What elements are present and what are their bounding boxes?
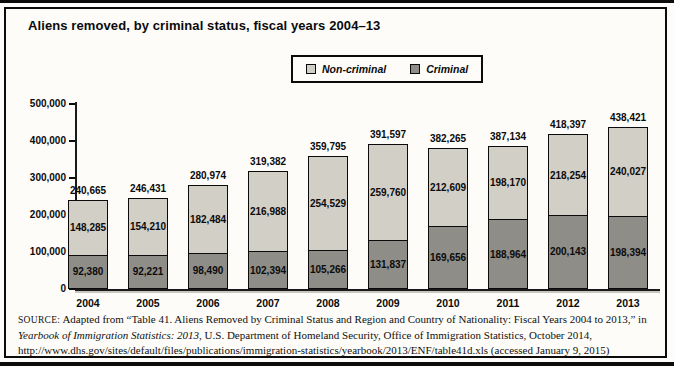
- noncriminal-value-2005: 154,210: [130, 221, 166, 232]
- x-tick-label-2008: 2008: [298, 297, 358, 309]
- criminal-value-2010: 169,656: [430, 252, 466, 263]
- y-tick-label-400,000: 400,000: [0, 135, 66, 146]
- criminal-value-2007: 102,394: [250, 265, 286, 276]
- source-label: SOURCE:: [18, 315, 60, 325]
- criminal-value-2011: 188,964: [490, 249, 526, 260]
- criminal-segment-2010: 169,656: [428, 226, 468, 289]
- criminal-segment-2004: 92,380: [68, 255, 108, 289]
- y-tick-label-100,000: 100,000: [0, 246, 66, 257]
- criminal-segment-2007: 102,394: [248, 251, 288, 289]
- source-note: SOURCE: Adapted from “Table 41. Aliens R…: [18, 312, 660, 358]
- noncriminal-value-2007: 216,988: [250, 206, 286, 217]
- noncriminal-segment-2008: 254,529: [308, 156, 348, 251]
- x-tick-label-2011: 2011: [478, 297, 538, 309]
- noncriminal-segment-2005: 154,210: [128, 198, 168, 256]
- total-label-2005: 246,431: [108, 183, 188, 194]
- noncriminal-value-2004: 148,285: [70, 222, 106, 233]
- noncriminal-segment-2012: 218,254: [548, 134, 588, 216]
- x-tick-label-2012: 2012: [538, 297, 598, 309]
- source-text-italic: Yearbook of Immigration Statistics: 2013: [18, 329, 199, 341]
- x-tick-label-2009: 2009: [358, 297, 418, 309]
- total-label-2013: 438,421: [588, 112, 668, 123]
- criminal-value-2005: 92,221: [133, 266, 164, 277]
- criminal-segment-2006: 98,490: [188, 253, 228, 289]
- criminal-value-2009: 131,837: [370, 259, 406, 270]
- noncriminal-value-2009: 259,760: [370, 187, 406, 198]
- x-tick-label-2005: 2005: [118, 297, 178, 309]
- criminal-segment-2008: 105,266: [308, 250, 348, 289]
- y-tick-label-500,000: 500,000: [0, 98, 66, 109]
- criminal-value-2008: 105,266: [310, 264, 346, 275]
- noncriminal-segment-2006: 182,484: [188, 185, 228, 254]
- criminal-value-2013: 198,394: [610, 247, 646, 258]
- x-tick-label-2010: 2010: [418, 297, 478, 309]
- x-axis-shadow: [75, 291, 660, 293]
- criminal-value-2004: 92,380: [73, 266, 104, 277]
- x-tick-label-2006: 2006: [178, 297, 238, 309]
- noncriminal-value-2010: 212,609: [430, 182, 466, 193]
- criminal-value-2006: 98,490: [193, 265, 224, 276]
- noncriminal-value-2011: 198,170: [490, 177, 526, 188]
- total-label-2008: 359,795: [288, 141, 368, 152]
- criminal-segment-2011: 188,964: [488, 219, 528, 289]
- total-label-2007: 319,382: [228, 156, 308, 167]
- criminal-value-2012: 200,143: [550, 246, 586, 257]
- criminal-segment-2005: 92,221: [128, 255, 168, 289]
- noncriminal-segment-2013: 240,027: [608, 127, 648, 217]
- source-text-1: Adapted from “Table 41. Aliens Removed b…: [60, 313, 646, 325]
- criminal-segment-2009: 131,837: [368, 240, 408, 289]
- x-tick-label-2004: 2004: [58, 297, 118, 309]
- y-tick-label-0: 0: [0, 283, 66, 294]
- criminal-segment-2012: 200,143: [548, 215, 588, 289]
- noncriminal-segment-2010: 212,609: [428, 148, 468, 228]
- noncriminal-segment-2009: 259,760: [368, 144, 408, 241]
- y-tick-label-300,000: 300,000: [0, 172, 66, 183]
- noncriminal-segment-2007: 216,988: [248, 171, 288, 252]
- noncriminal-segment-2011: 198,170: [488, 146, 528, 220]
- noncriminal-segment-2004: 148,285: [68, 200, 108, 256]
- criminal-segment-2013: 198,394: [608, 216, 648, 289]
- y-tick-label-200,000: 200,000: [0, 209, 66, 220]
- noncriminal-value-2008: 254,529: [310, 198, 346, 209]
- noncriminal-value-2012: 218,254: [550, 170, 586, 181]
- total-label-2006: 280,974: [168, 170, 248, 181]
- figure-page: Aliens removed, by criminal status, fisc…: [0, 0, 674, 368]
- noncriminal-value-2006: 182,484: [190, 214, 226, 225]
- x-tick-label-2007: 2007: [238, 297, 298, 309]
- total-label-2011: 387,134: [468, 131, 548, 142]
- noncriminal-value-2013: 240,027: [610, 166, 646, 177]
- x-tick-label-2013: 2013: [598, 297, 658, 309]
